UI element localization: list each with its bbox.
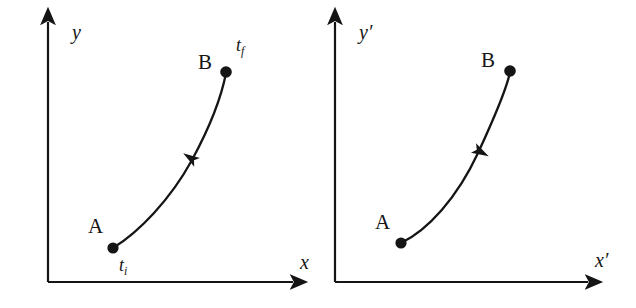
primed-frame-drawing: [318, 0, 636, 308]
point-a-dot: [395, 237, 406, 248]
point-a-time-label: ti: [119, 256, 127, 278]
point-a-dot: [107, 242, 118, 253]
point-b-time-label: tf: [236, 36, 244, 58]
trajectory-path: [113, 73, 226, 248]
unprimed-frame-drawing: [0, 0, 318, 308]
point-a-time-subscript: i: [124, 264, 127, 278]
panel-unprimed-frame: y x A ti B tf: [0, 0, 318, 308]
point-b-label: B: [481, 50, 495, 71]
y-axis-label: y: [72, 22, 81, 42]
point-a-label: A: [375, 212, 390, 233]
point-b-dot: [504, 65, 516, 77]
point-b-label: B: [198, 52, 212, 73]
trajectory-path: [401, 72, 510, 243]
point-b-time-subscript: f: [241, 44, 244, 58]
point-b-dot: [220, 66, 232, 78]
figure-root: y x A ti B tf: [0, 0, 636, 308]
y-prime-axis-label: y′: [359, 22, 372, 42]
point-a-label: A: [88, 216, 103, 237]
panel-primed-frame: y′ x′ A B: [318, 0, 636, 308]
x-axis-label: x: [300, 252, 309, 272]
x-prime-axis-label: x′: [595, 250, 608, 270]
